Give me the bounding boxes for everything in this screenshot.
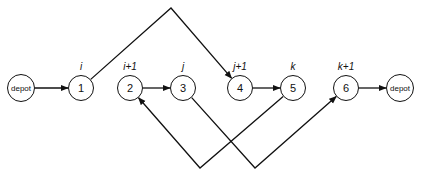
node-text: 6 [343,82,349,94]
node-text: depot [390,84,410,93]
node-label-n1: i [80,61,82,72]
route-diagram [0,0,423,180]
node-label-n5: k [291,61,296,72]
node-n6: 6 [333,75,359,101]
node-depot-start: depot [7,74,35,102]
node-depot-end: depot [386,74,414,102]
node-n1: 1 [68,75,94,101]
node-label-n2: i+1 [123,61,137,72]
edge-n1-to-n4 [91,8,232,79]
node-label-n4: j+1 [233,61,247,72]
node-text: 4 [237,82,243,94]
node-text: 1 [78,82,84,94]
node-text: 2 [127,82,133,94]
node-text: depot [11,84,31,93]
node-text: 5 [290,82,296,94]
node-n2: 2 [117,75,143,101]
node-n3: 3 [170,75,196,101]
node-label-n6: k+1 [338,61,354,72]
node-n4: 4 [227,75,253,101]
edge-n5-to-n2 [139,96,284,168]
node-label-n3: j [182,61,184,72]
node-text: 3 [180,82,186,94]
node-n5: 5 [280,75,306,101]
